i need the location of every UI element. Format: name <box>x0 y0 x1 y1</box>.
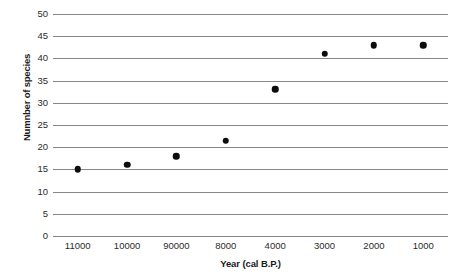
scatter-chart: Numnber of species 05101520253035404550 … <box>0 0 452 277</box>
data-point <box>173 153 180 160</box>
x-axis-title: Year (cal B.P.) <box>53 258 448 269</box>
gridline <box>53 81 448 82</box>
y-axis-tick-label: 0 <box>22 231 48 241</box>
gridline <box>53 58 448 59</box>
y-axis-tick-label: 15 <box>22 165 48 175</box>
x-axis-tick-label: 10000 <box>114 240 140 251</box>
x-axis-tick-label: 90000 <box>163 240 189 251</box>
y-axis-tick-label: 30 <box>22 98 48 108</box>
gridline <box>53 147 448 148</box>
y-axis-tick-label: 45 <box>22 31 48 41</box>
y-axis-tick-label: 5 <box>22 209 48 219</box>
y-axis-tick-label: 25 <box>22 120 48 130</box>
gridline <box>53 236 448 237</box>
x-axis-tick-labels: 11000100009000080004000300020001000 <box>53 240 448 254</box>
gridline <box>53 125 448 126</box>
data-point <box>124 162 131 169</box>
data-point <box>321 51 328 58</box>
y-axis-tick-label: 10 <box>22 187 48 197</box>
data-point <box>272 86 279 93</box>
gridline <box>53 192 448 193</box>
data-point <box>420 42 427 49</box>
x-axis-tick-label: 1000 <box>413 240 434 251</box>
gridline <box>53 103 448 104</box>
x-axis-tick-label: 3000 <box>314 240 335 251</box>
x-axis-tick-label: 2000 <box>363 240 384 251</box>
plot-area <box>53 14 448 236</box>
x-axis-tick-label: 4000 <box>265 240 286 251</box>
y-axis-tick-label: 50 <box>22 9 48 19</box>
x-axis-tick-label: 8000 <box>215 240 236 251</box>
gridline <box>53 36 448 37</box>
data-point <box>371 42 378 49</box>
gridline <box>53 214 448 215</box>
gridline <box>53 169 448 170</box>
y-axis-tick-label: 20 <box>22 142 48 152</box>
data-point <box>223 137 230 144</box>
y-axis-tick-labels: 05101520253035404550 <box>22 0 48 236</box>
x-axis-tick-label: 11000 <box>65 240 91 251</box>
gridline <box>53 14 448 15</box>
y-axis-tick-label: 40 <box>22 54 48 64</box>
data-point <box>74 166 81 173</box>
y-axis-tick-label: 35 <box>22 76 48 86</box>
